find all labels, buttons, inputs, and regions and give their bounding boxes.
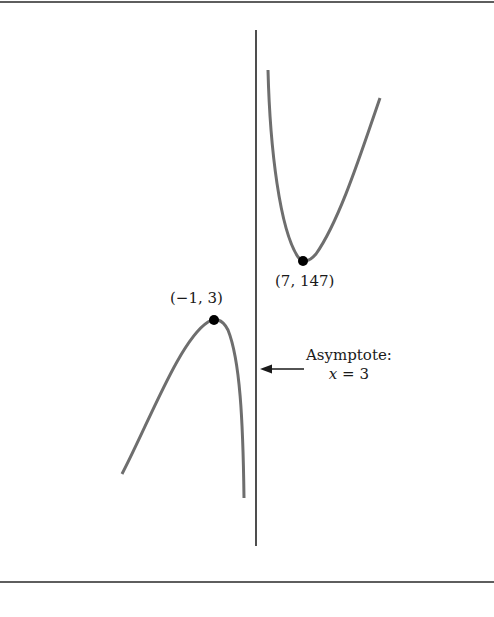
asymptote-equation: x = 3 (306, 365, 392, 384)
local-max-label: (−1, 3) (170, 289, 223, 307)
asymptote-label: Asymptote: x = 3 (306, 346, 392, 384)
right-branch-curve (268, 70, 380, 261)
graph-canvas (0, 0, 494, 617)
local-max-point (209, 315, 219, 325)
local-min-point (298, 256, 308, 266)
left-branch-curve (122, 320, 244, 498)
asymptote-title: Asymptote: (306, 346, 392, 365)
asymptote-arrow-head (260, 365, 272, 374)
asymptote-value: = 3 (337, 365, 369, 383)
local-min-label: (7, 147) (275, 272, 334, 290)
